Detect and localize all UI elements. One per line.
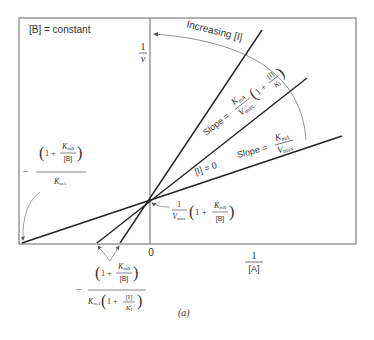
slope-uninhibited-label: Slope = KmA Vmax	[234, 128, 296, 165]
svg-text:[I]: [I]	[126, 293, 133, 301]
svg-text:[B]: [B]	[216, 215, 225, 223]
svg-text:1 +: 1 +	[195, 207, 207, 217]
svg-text:KmA: KmA	[87, 297, 101, 306]
zero-inhibitor-label: [I] = 0	[193, 160, 218, 177]
svg-text:[B]: [B]	[64, 155, 73, 163]
svg-text:): )	[229, 203, 234, 221]
svg-text:[B]: [B]	[120, 275, 129, 283]
svg-text:Vmax: Vmax	[172, 212, 186, 221]
origin-label: 0	[148, 247, 154, 258]
leader-arrow-inhibited-b	[110, 246, 119, 261]
x-intercept-inhibited-label: − ( 1 + KmB [B] ) KmA ( 1 + [I] KI )	[76, 262, 146, 312]
y-label-den: v	[141, 53, 146, 64]
lineweaver-burk-diagram: [B] = constant 1 v 1 [A] 0 Increasing [I…	[0, 0, 374, 340]
svg-text:1 +: 1 +	[45, 149, 56, 158]
svg-text:): )	[77, 144, 82, 162]
svg-text:1: 1	[177, 200, 181, 209]
svg-text:KmB: KmB	[61, 142, 74, 151]
svg-text:KI: KI	[125, 304, 133, 312]
svg-text:(: (	[189, 203, 194, 221]
svg-text:): )	[133, 264, 138, 282]
svg-text:Slope =: Slope =	[236, 142, 268, 160]
figure-label: (a)	[178, 307, 190, 319]
svg-text:1 +: 1 +	[101, 269, 112, 278]
x-intercept-uninhibited-label: − ( 1 + KmB [B] ) KmA	[23, 142, 86, 186]
svg-text:(: (	[101, 292, 106, 310]
leader-arrow-y-intercept	[152, 203, 170, 207]
x-label-den: [A]	[248, 264, 259, 274]
leader-arrow-inhibited-a	[98, 246, 110, 261]
y-label-num: 1	[141, 41, 146, 52]
leader-arrow-x-intercept	[23, 192, 40, 240]
x-label-num: 1	[252, 250, 257, 261]
svg-text:KI: KI	[271, 79, 282, 90]
line-no-inhibitor	[22, 136, 342, 243]
svg-text:−: −	[23, 166, 29, 177]
svg-text:−: −	[76, 284, 82, 295]
svg-text:KmB: KmB	[117, 262, 130, 271]
condition-label: [B] = constant	[29, 24, 91, 35]
svg-text:1 +: 1 +	[107, 297, 118, 306]
svg-text:(: (	[95, 264, 100, 282]
svg-text:): )	[137, 292, 142, 310]
svg-text:(: (	[39, 144, 44, 162]
y-intercept-label: 1 Vmax ( 1 + KmB [B] )	[172, 200, 234, 223]
svg-text:KmA: KmA	[228, 90, 247, 108]
svg-text:KmA: KmA	[53, 177, 67, 186]
line-inhibitor	[97, 78, 307, 243]
increasing-arrow	[154, 34, 306, 140]
svg-text:KmB: KmB	[213, 201, 226, 210]
